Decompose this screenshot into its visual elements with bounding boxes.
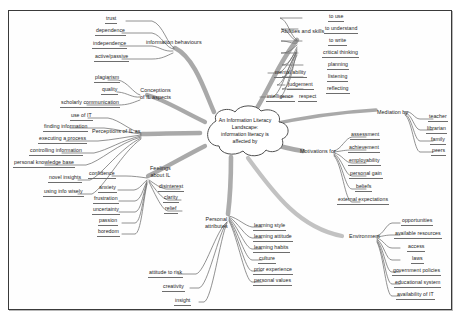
- leaf-personal-gain: personal gain: [349, 171, 383, 179]
- center-node: An Information Literacy Landscape: infor…: [198, 105, 292, 157]
- leaf-relief: relief: [164, 206, 178, 214]
- leaf-learning-habits: learning habits: [253, 245, 290, 253]
- leaf-dependence: dependence: [95, 28, 126, 36]
- leaf-personal-knowledge-base: personal knowledge base: [13, 160, 75, 168]
- leaf-anxiety: anxiety: [98, 185, 117, 193]
- leaf-trust: trust: [105, 16, 117, 24]
- branch-information-behaviours: information behaviours: [146, 39, 202, 46]
- leaf-frustration: frustration: [93, 196, 119, 204]
- leaf-executing-a-process: executing a process: [38, 136, 87, 144]
- leaf-plagiarism: plagiarism: [94, 75, 120, 83]
- leaf-culture: culture: [258, 256, 276, 264]
- branch-environment: Environment: [349, 233, 380, 240]
- leaf-use-of-it: use of IT: [70, 113, 93, 121]
- leaf-intelligence: intelligence: [266, 94, 295, 102]
- leaf-creativity: creativity: [162, 284, 185, 292]
- leaf-prior-experience: prior experience: [253, 267, 293, 275]
- leaf-employability: employability: [348, 158, 381, 166]
- leaf-confidence: confidence: [88, 171, 116, 179]
- leaf-achievement: achievement: [348, 145, 380, 153]
- leaf-active-passive: active/passive: [94, 54, 129, 62]
- leaf-clarity: clarity: [163, 195, 179, 203]
- leaf-family: family: [430, 137, 446, 145]
- leaf-using-info-wisely: using info wisely: [43, 189, 84, 197]
- leaf-assessment: assessment: [350, 132, 380, 140]
- leaf-judgement: judgement: [287, 82, 314, 90]
- leaf-educational-system: educational system: [394, 280, 441, 288]
- leaf-government-policies: government policies: [392, 268, 441, 276]
- leaf-critical-thinking: critical thinking: [322, 50, 359, 58]
- branch-perceptions-of-il-as: Perceptions of IL as: [92, 128, 140, 135]
- leaf-respect: respect: [298, 94, 317, 102]
- branch-personal-attributes: Personal attributes: [205, 216, 228, 230]
- leaf-disinterest: disinterest: [158, 184, 184, 192]
- mindmap-canvas: An Information Literacy Landscape: infor…: [0, 0, 467, 325]
- branch-feelings-about-il: Feelings about IL: [150, 165, 171, 179]
- leaf-uncertainty: uncertainty: [92, 207, 120, 215]
- leaf-external-expectations: external expectations: [337, 197, 389, 205]
- leaf-reflecting: reflecting: [326, 86, 350, 94]
- leaf-available-resources: available resources: [394, 231, 442, 239]
- leaf-boredom: boredom: [97, 229, 120, 237]
- leaf-opportunities: opportunities: [401, 218, 433, 226]
- leaf-passion: passion: [98, 218, 118, 226]
- branch-abilities-and-skills: Abilities and skills: [281, 28, 324, 35]
- leaf-beliefs: beliefs: [355, 184, 372, 192]
- leaf-controlling-information: controlling information: [29, 148, 83, 156]
- branch-mediation-by: Mediation by: [377, 109, 408, 116]
- leaf-listening: listening: [327, 74, 348, 82]
- leaf-to-understand: to understand: [324, 26, 358, 34]
- leaf-to-write: to write: [328, 38, 347, 46]
- leaf-learning-attitude: learning attitude: [253, 234, 293, 242]
- leaf-scholarly-communication: scholarly communication: [60, 100, 120, 108]
- leaf-availability-of-it: availability of IT: [396, 292, 435, 300]
- leaf-quality: quality: [101, 87, 118, 95]
- leaf-attitude-to-risk: attitude to risk: [148, 270, 183, 278]
- leaf-peers: peers: [431, 148, 446, 156]
- branch-motivations-for: Motivations for: [300, 148, 336, 155]
- leaf-mental-ability: mental ability: [274, 70, 307, 78]
- leaf-access: access: [407, 244, 425, 252]
- leaf-personal-values: personal values: [253, 278, 292, 286]
- leaf-learning-style: learning style: [253, 223, 286, 231]
- leaf-librarian: librarian: [426, 126, 447, 134]
- leaf-finding-information: finding information: [43, 124, 88, 132]
- leaf-teacher: teacher: [428, 114, 448, 122]
- leaf-novel-insights: novel insights: [48, 175, 82, 183]
- leaf-to-use: to use: [328, 14, 344, 22]
- leaf-laws: laws: [411, 256, 424, 264]
- leaf-planning: planning: [327, 62, 349, 70]
- center-label: An Information Literacy Landscape: infor…: [198, 105, 292, 157]
- leaf-independence: independence: [92, 41, 127, 49]
- branch-conceptions-of-il-aspects: Conceptions of IL aspects: [140, 87, 171, 101]
- leaf-insight: insight: [174, 298, 191, 306]
